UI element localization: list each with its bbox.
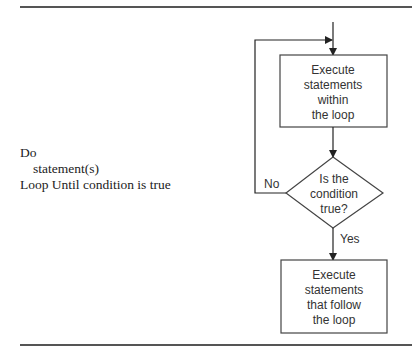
svg-text:within: within	[317, 93, 349, 107]
flowchart: Execute statements within the loop Is th…	[0, 0, 412, 352]
box-bottom-line-3: that follow	[307, 298, 361, 312]
svg-text:the loop: the loop	[313, 313, 356, 327]
box-top-line-1: Execute	[311, 63, 355, 77]
svg-text:the loop: the loop	[312, 108, 355, 122]
box-bottom-line-2: statements	[305, 283, 364, 297]
svg-text:No: No	[264, 177, 280, 191]
decision-line-3: true?	[320, 202, 348, 216]
svg-text:Execute: Execute	[312, 268, 356, 282]
svg-text:true?: true?	[320, 202, 348, 216]
decision-line-1: Is the	[319, 172, 349, 186]
svg-text:that follow: that follow	[307, 298, 361, 312]
svg-text:statements: statements	[304, 78, 363, 92]
box-bottom-line-4: the loop	[313, 313, 356, 327]
box-top-line-4: the loop	[312, 108, 355, 122]
no-label: No	[264, 177, 280, 191]
svg-text:Execute: Execute	[311, 63, 355, 77]
box-bottom-line-1: Execute	[312, 268, 356, 282]
svg-text:Is the: Is the	[319, 172, 349, 186]
svg-text:Yes: Yes	[340, 232, 360, 246]
svg-text:condition: condition	[310, 187, 358, 201]
svg-text:statements: statements	[305, 283, 364, 297]
yes-label: Yes	[340, 232, 360, 246]
box-top-line-2: statements	[304, 78, 363, 92]
box-top-line-3: within	[317, 93, 349, 107]
decision-line-2: condition	[310, 187, 358, 201]
